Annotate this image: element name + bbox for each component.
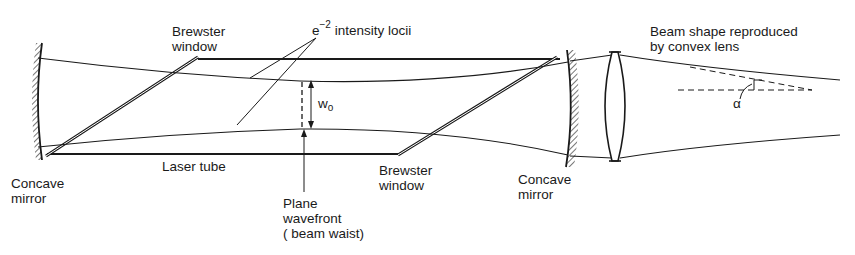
brewster-window-left [46,57,198,156]
brewster-window-top-label: Brewster window [172,24,225,54]
beam-waist-marker [302,82,311,128]
brewster-window-right [398,57,557,155]
brewster-window-bottom-label: Brewster window [379,163,432,193]
intensity-locii-label: e−2 intensity locii [312,23,411,39]
beam-shape-label: Beam shape reproduced by convex lens [650,24,798,54]
concave-mirror-left-label: Concave mirror [11,176,64,206]
beam-waist-symbol: wo [318,96,333,112]
beam-envelope [38,58,568,155]
right-concave-mirror [566,50,579,167]
beam-after-lens [620,55,840,158]
convex-lens [605,52,625,161]
plane-wavefront-label: Plane wavefront ( beam waist) [283,196,364,241]
concave-mirror-right-label: Concave mirror [518,172,571,202]
left-concave-mirror [32,43,42,160]
laser-tube-label: Laser tube [162,159,226,174]
alpha-symbol: α [733,96,741,111]
divergence-angle-construction [678,67,812,99]
